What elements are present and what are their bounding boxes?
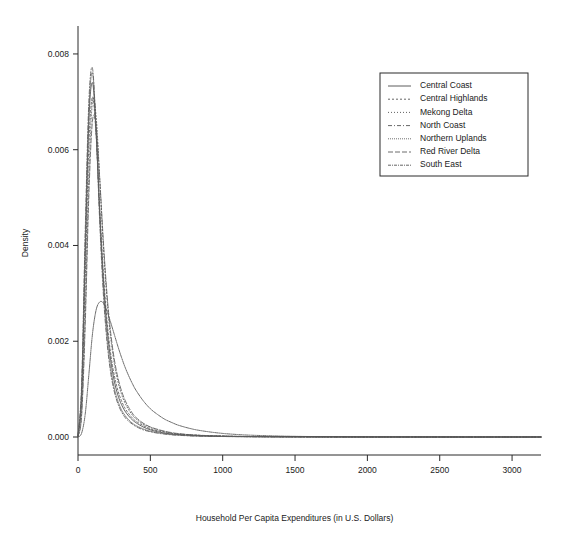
x-tick-label: 2000 bbox=[358, 465, 377, 475]
legend-label: Northern Uplands bbox=[420, 133, 487, 143]
x-tick-label: 2500 bbox=[430, 465, 449, 475]
x-tick-label: 1500 bbox=[286, 465, 305, 475]
y-tick-label: 0.002 bbox=[48, 336, 70, 346]
y-tick-label: 0.008 bbox=[48, 49, 70, 59]
legend: Central CoastCentral HighlandsMekong Del… bbox=[380, 73, 528, 176]
legend-label: Central Coast bbox=[420, 80, 473, 90]
legend-label: Mekong Delta bbox=[420, 107, 473, 117]
density-curve bbox=[78, 301, 541, 437]
y-tick-label: 0.004 bbox=[48, 240, 70, 250]
chart-canvas: 0.0000.0020.0040.0060.008050010001500200… bbox=[0, 0, 569, 550]
x-tick-label: 1000 bbox=[213, 465, 232, 475]
chart-svg: 0.0000.0020.0040.0060.008050010001500200… bbox=[0, 0, 569, 550]
x-axis-title: Household Per Capita Expenditures (in U.… bbox=[196, 513, 394, 523]
legend-label: North Coast bbox=[420, 120, 466, 130]
legend-label: Red River Delta bbox=[420, 146, 480, 156]
y-tick-label: 0.006 bbox=[48, 145, 70, 155]
x-tick-label: 500 bbox=[143, 465, 157, 475]
x-tick-label: 0 bbox=[76, 465, 81, 475]
density-plot: 0.0000.0020.0040.0060.008050010001500200… bbox=[0, 0, 569, 550]
legend-label: South East bbox=[420, 159, 462, 169]
x-tick-label: 3000 bbox=[503, 465, 522, 475]
legend-label: Central Highlands bbox=[420, 93, 488, 103]
y-tick-label: 0.000 bbox=[48, 432, 70, 442]
y-axis-title: Density bbox=[20, 228, 30, 257]
